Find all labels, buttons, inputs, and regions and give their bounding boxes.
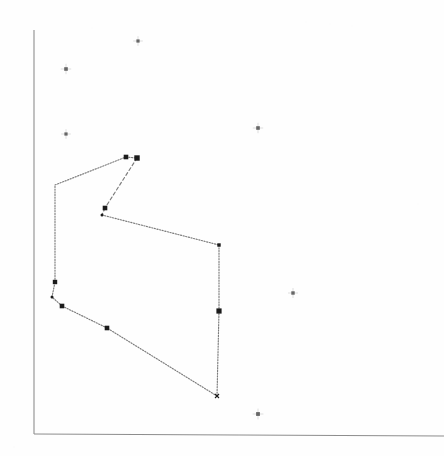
- polygon-vertex-marker: [101, 214, 104, 217]
- chart-canvas: [0, 0, 444, 456]
- scan-speck: [91, 27, 92, 28]
- polygon-vertex-marker: [217, 243, 220, 246]
- polygon-vertex-marker: [134, 155, 139, 160]
- polygon-vertex-marker: [124, 155, 129, 160]
- scan-speck: [329, 23, 331, 25]
- scan-speck: [417, 203, 419, 205]
- scan-speck: [13, 446, 15, 448]
- scan-speck: [351, 25, 353, 27]
- polygon-vertex-marker: [105, 326, 110, 331]
- polygon-vertex-marker: [51, 296, 54, 299]
- scan-speck: [305, 21, 307, 23]
- polygon-vertex-marker: [216, 308, 221, 313]
- polygon-vertex-marker: [103, 206, 108, 211]
- polygon-vertex-marker: [53, 280, 57, 284]
- polygon-vertex-marker: [60, 304, 65, 309]
- scatter-plot-figure: [0, 0, 444, 456]
